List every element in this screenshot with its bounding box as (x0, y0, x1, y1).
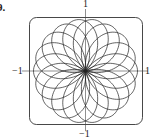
polar-rose-plot (0, 0, 154, 140)
tick-label-right: 1 (145, 66, 150, 76)
tick-label-bottom: −1 (79, 129, 90, 139)
tick-label-left: −1 (12, 66, 23, 76)
tick-label-top: 1 (83, 0, 88, 9)
